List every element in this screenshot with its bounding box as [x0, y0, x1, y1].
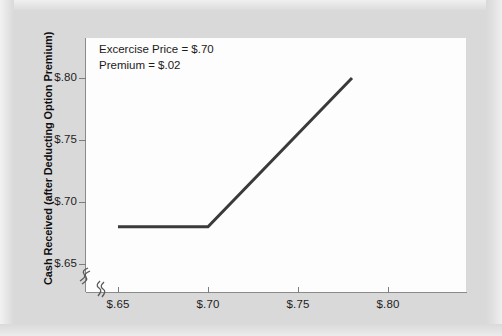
y-tick-label-080: $.80	[35, 71, 77, 83]
y-tick-mark	[79, 202, 86, 203]
option-payoff-figure: Cash Received (after Deducting Option Pr…	[0, 0, 502, 336]
x-tick-label-070: $.70	[178, 298, 238, 310]
annotation-exercise-price: Excercise Price = $.70	[99, 42, 214, 58]
annotation-block: Excercise Price = $.70 Premium = $.02	[99, 42, 214, 73]
page-edge-bottom	[0, 324, 502, 336]
page-edge-top	[0, 0, 502, 10]
y-tick-label-075: $.75	[35, 133, 77, 145]
page-edge-left	[0, 0, 14, 336]
x-tick-label-075: $.75	[268, 298, 328, 310]
y-tick-mark	[79, 78, 86, 79]
y-tick-mark	[79, 264, 86, 265]
x-tick-mark	[388, 287, 389, 293]
y-tick-label-065: $.65	[35, 257, 77, 269]
page-edge-right	[486, 0, 502, 336]
x-tick-mark	[118, 287, 119, 293]
annotation-premium: Premium = $.02	[99, 58, 214, 74]
x-tick-mark	[298, 287, 299, 293]
x-tick-label-080: $.80	[358, 298, 418, 310]
x-tick-mark	[208, 287, 209, 293]
y-axis-line	[85, 38, 86, 292]
x-axis-line	[86, 292, 467, 293]
x-tick-label-065: $.65	[88, 298, 148, 310]
y-tick-mark	[79, 140, 86, 141]
plot-area	[86, 38, 466, 292]
y-tick-label-070: $.70	[35, 195, 77, 207]
